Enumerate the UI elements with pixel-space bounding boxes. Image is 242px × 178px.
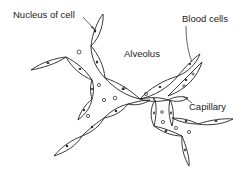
epithelial-cell-lower-2 bbox=[82, 118, 104, 136]
leader-blood-cells bbox=[186, 26, 192, 62]
epithelial-cell-left-1 bbox=[31, 57, 66, 70]
epithelial-cell-center-2 bbox=[78, 99, 92, 120]
label-blood-cells: Blood cells bbox=[182, 14, 228, 24]
label-capillary: Capillary bbox=[189, 102, 226, 112]
cell-drawing bbox=[0, 0, 242, 178]
capillary-wall-upper-2 bbox=[178, 54, 200, 76]
epithelial-cell-upper-mid bbox=[91, 46, 105, 78]
capillary-wall-right bbox=[198, 119, 233, 125]
capillary-wall-lower-1 bbox=[151, 100, 156, 126]
capillary-wall-lower-2 bbox=[169, 100, 173, 126]
epithelial-cell-center-1 bbox=[91, 80, 94, 99]
epithelial-cell-left-2 bbox=[66, 57, 92, 80]
epithelial-cell-lower-3 bbox=[104, 104, 128, 118]
label-nucleus-of-cell: Nucleus of cell bbox=[13, 10, 75, 20]
capillary-wall-bottom bbox=[182, 136, 189, 166]
epithelial-cell-top bbox=[91, 14, 103, 46]
label-alveolus: Alveolus bbox=[124, 49, 160, 59]
capillary-wall-lower-4 bbox=[172, 118, 198, 124]
epithelial-cell-lower-1 bbox=[54, 136, 82, 156]
alveolus-diagram: Nucleus of cell Alveolus Blood cells Cap… bbox=[0, 0, 242, 178]
